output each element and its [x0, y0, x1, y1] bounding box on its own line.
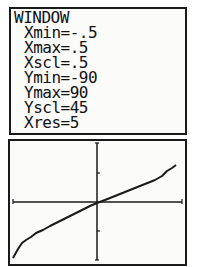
function-curve: [13, 165, 176, 258]
graph-screen: [8, 139, 187, 266]
graph-plot: [10, 141, 185, 264]
xres-setting[interactable]: Xres=5: [24, 115, 79, 130]
window-settings-screen: WINDOW Xmin=-.5 Xmax=.5 Xscl=.5 Ymin=-90…: [9, 7, 187, 135]
